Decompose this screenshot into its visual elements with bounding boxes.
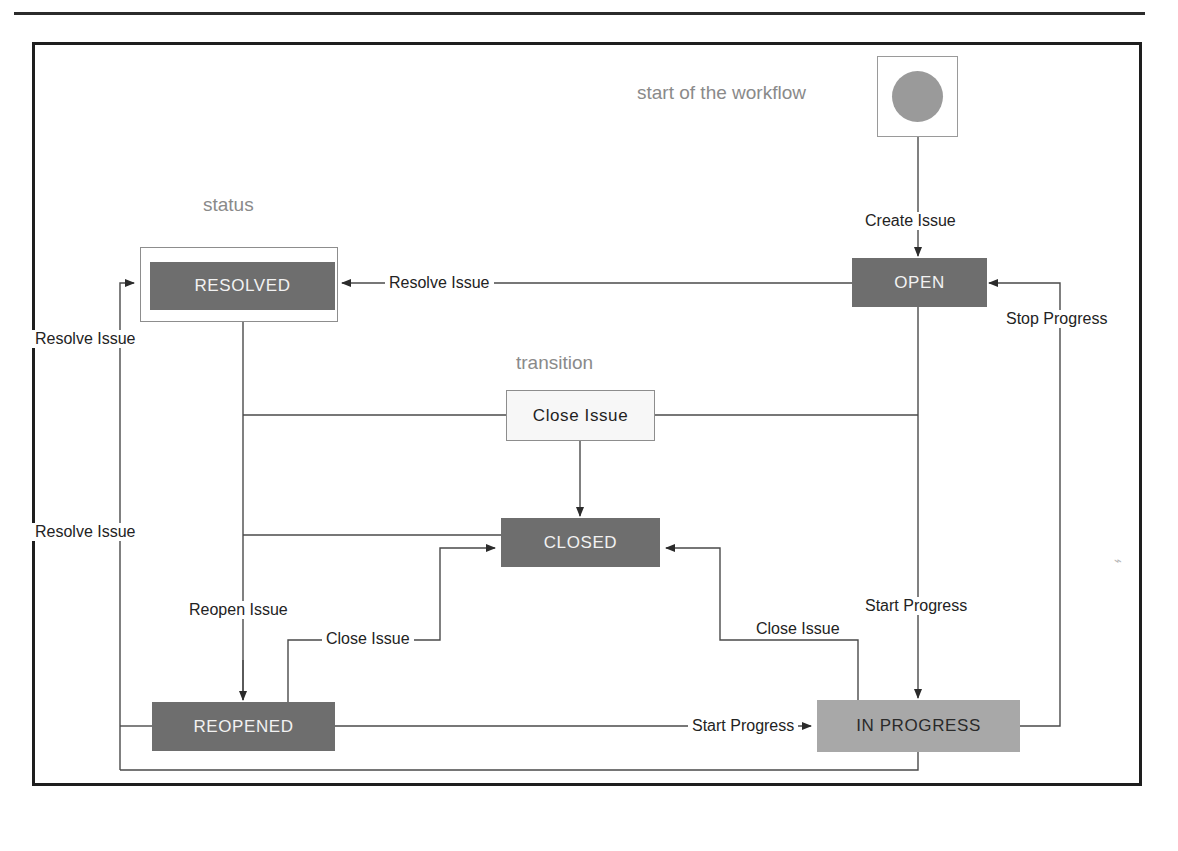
edge-label-close-issue-inprogress: Close Issue	[752, 620, 844, 638]
edge-label-start-progress-reopened: Start Progress	[688, 717, 798, 735]
scan-speck-artifact: ⌁	[1114, 553, 1122, 568]
status-node-in-progress[interactable]: IN PROGRESS	[817, 700, 1020, 752]
edge-label-create-issue: Create Issue	[861, 212, 960, 230]
diagram-page: RESOLVED OPEN CLOSED REOPENED IN PROGRES…	[0, 0, 1178, 851]
caption-status: status	[203, 194, 254, 216]
caption-transition: transition	[516, 352, 593, 374]
edge-label-resolve-issue-top: Resolve Issue	[385, 274, 494, 292]
edge-label-close-issue-reopened: Close Issue	[322, 630, 414, 648]
caption-start-of-workflow: start of the workflow	[637, 82, 806, 104]
start-node-dot	[892, 71, 943, 122]
status-node-reopened[interactable]: REOPENED	[152, 702, 335, 751]
edge-label-resolve-issue-mid: Resolve Issue	[31, 330, 140, 348]
transition-node-close-issue[interactable]: Close Issue	[506, 390, 655, 441]
status-node-resolved[interactable]: RESOLVED	[150, 262, 335, 310]
page-top-rule	[14, 12, 1145, 15]
edge-label-resolve-issue-low: Resolve Issue	[31, 523, 140, 541]
edge-label-reopen-issue: Reopen Issue	[185, 601, 292, 619]
status-node-closed[interactable]: CLOSED	[501, 518, 660, 567]
edge-label-start-progress-open: Start Progress	[861, 597, 971, 615]
edge-label-stop-progress: Stop Progress	[1002, 310, 1111, 328]
status-node-open[interactable]: OPEN	[852, 258, 987, 307]
